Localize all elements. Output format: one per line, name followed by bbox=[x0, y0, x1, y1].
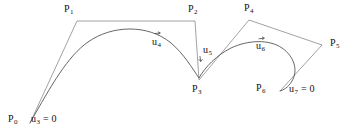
label-P2-sub: 2 bbox=[194, 8, 198, 16]
label-u4-sub: 4 bbox=[157, 41, 161, 49]
label-P2-name: P bbox=[188, 3, 194, 14]
label-knot-u3: u3 = 0 bbox=[31, 114, 57, 126]
label-P3-sub: 3 bbox=[198, 88, 202, 96]
label-point-P1: P1 bbox=[64, 4, 74, 16]
label-knot-u6: u6 bbox=[256, 41, 265, 53]
label-knot-u5: u5 bbox=[203, 45, 212, 57]
label-u5-sub: 5 bbox=[208, 49, 212, 57]
direction-arrow-u5 bbox=[199, 57, 202, 62]
label-P3-name: P bbox=[192, 83, 198, 94]
label-P6-sub: 6 bbox=[262, 87, 266, 95]
label-P0-name: P bbox=[8, 113, 14, 124]
label-u6-sub: 6 bbox=[261, 45, 265, 53]
label-P5-name: P bbox=[330, 37, 336, 48]
label-P4-sub: 4 bbox=[250, 7, 254, 15]
control-polygon bbox=[30, 20, 322, 123]
label-point-P3: P3 bbox=[192, 84, 202, 96]
label-u7-suffix: = 0 bbox=[298, 83, 314, 94]
label-point-P2: P2 bbox=[188, 4, 198, 16]
label-point-P0: P0 bbox=[8, 114, 18, 126]
label-P1-sub: 1 bbox=[70, 8, 74, 16]
label-point-P4: P4 bbox=[244, 3, 254, 15]
label-knot-u4: u4 bbox=[152, 37, 161, 49]
label-P6-name: P bbox=[256, 82, 262, 93]
label-u3-suffix: = 0 bbox=[40, 113, 56, 124]
label-point-P5: P5 bbox=[330, 38, 340, 50]
label-P0-sub: 0 bbox=[14, 118, 18, 126]
label-P4-name: P bbox=[244, 2, 250, 13]
label-P1-name: P bbox=[64, 3, 70, 14]
label-point-P6: P6 bbox=[256, 83, 266, 95]
label-P5-sub: 5 bbox=[336, 42, 340, 50]
bspline-figure: P0 P1 P2 P3 P4 P5 P6 u3 = 0 u4 u5 u6 u7 … bbox=[0, 0, 355, 134]
label-knot-u7: u7 = 0 bbox=[289, 84, 315, 96]
